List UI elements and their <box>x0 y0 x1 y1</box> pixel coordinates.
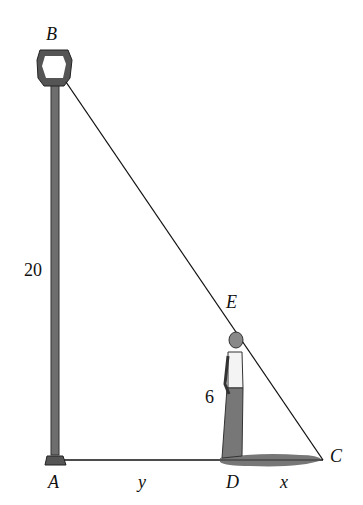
person <box>222 332 243 458</box>
pole-base <box>45 456 66 465</box>
lamp-pole <box>51 80 59 455</box>
light-ray <box>66 82 323 460</box>
label-x: x <box>279 472 288 492</box>
label-person-height: 6 <box>205 387 214 407</box>
label-y: y <box>136 472 146 492</box>
label-B: B <box>46 24 57 44</box>
label-C: C <box>330 446 343 466</box>
label-A: A <box>47 472 60 492</box>
label-E: E <box>225 292 237 312</box>
label-pole-height: 20 <box>24 260 42 280</box>
diagram: B 20 E 6 A y D x C <box>0 0 363 505</box>
lamp-light <box>42 56 66 78</box>
label-D: D <box>225 472 239 492</box>
